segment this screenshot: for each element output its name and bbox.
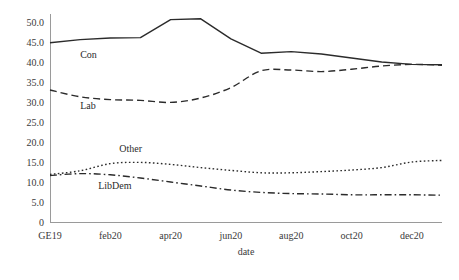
y-tick-label: 25.0 (27, 117, 45, 128)
y-tick-label: 5.0 (32, 197, 45, 208)
series-line-lab (50, 64, 442, 102)
chart-container: 05.010.015.020.025.030.035.040.045.050.0… (0, 0, 459, 280)
x-tick-label: apr20 (159, 230, 182, 241)
y-tick-label: 35.0 (27, 77, 45, 88)
y-tick-label: 30.0 (27, 97, 45, 108)
series-line-other (50, 160, 442, 174)
y-tick-label: 0 (39, 217, 44, 228)
x-tick-label: jun20 (219, 230, 243, 241)
line-chart: 05.010.015.020.025.030.035.040.045.050.0… (0, 0, 459, 280)
y-axis-tick-labels: 05.010.015.020.025.030.035.040.045.050.0 (27, 17, 45, 228)
x-tick-label: dec20 (400, 230, 424, 241)
y-tick-label: 20.0 (27, 137, 45, 148)
series-label-libdem: LibDem (98, 180, 132, 191)
x-tick-label: oct20 (340, 230, 362, 241)
series-label-lab: Lab (80, 100, 96, 111)
x-tick-label: feb20 (99, 230, 122, 241)
x-tick-label: aug20 (279, 230, 303, 241)
series-line-con (50, 19, 442, 65)
series-label-con: Con (80, 49, 97, 60)
y-tick-label: 50.0 (27, 17, 45, 28)
data-series-group (50, 19, 442, 195)
x-tick-label: GE19 (38, 230, 61, 241)
x-axis-title: date (238, 246, 255, 257)
x-axis-tick-labels: GE19feb20apr20jun20aug20oct20dec20 (38, 230, 423, 241)
y-tick-label: 15.0 (27, 157, 45, 168)
y-tick-label: 45.0 (27, 37, 45, 48)
series-inline-labels: ConLabOtherLibDem (80, 49, 143, 191)
series-label-other: Other (119, 143, 142, 154)
y-tick-label: 10.0 (27, 177, 45, 188)
y-tick-label: 40.0 (27, 57, 45, 68)
